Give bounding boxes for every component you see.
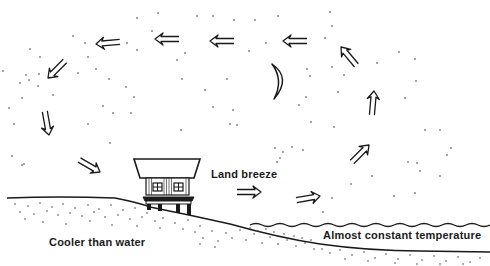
arrow-icon (210, 35, 234, 47)
arrow-icon (283, 35, 307, 47)
sea-temperature-label: Almost constant temperature (323, 229, 481, 241)
arrow-icon (44, 57, 69, 82)
arrow-icon (155, 33, 179, 45)
circulation-arrows (39, 33, 380, 206)
arrow-icon (295, 190, 321, 206)
house-icon (134, 159, 200, 215)
arrow-icon (76, 155, 103, 177)
moon-icon (272, 64, 283, 99)
arrow-icon (95, 36, 120, 50)
arrow-icon (366, 90, 380, 115)
land-breeze-label: Land breeze (211, 168, 277, 180)
arrow-icon (39, 110, 55, 136)
arrow-icon (348, 141, 373, 166)
sea (250, 224, 490, 227)
diagram-canvas (0, 0, 490, 266)
arrow-icon (336, 43, 361, 69)
land-breeze-arrow-icon (237, 186, 261, 198)
land-temperature-label: Cooler than water (49, 236, 145, 248)
